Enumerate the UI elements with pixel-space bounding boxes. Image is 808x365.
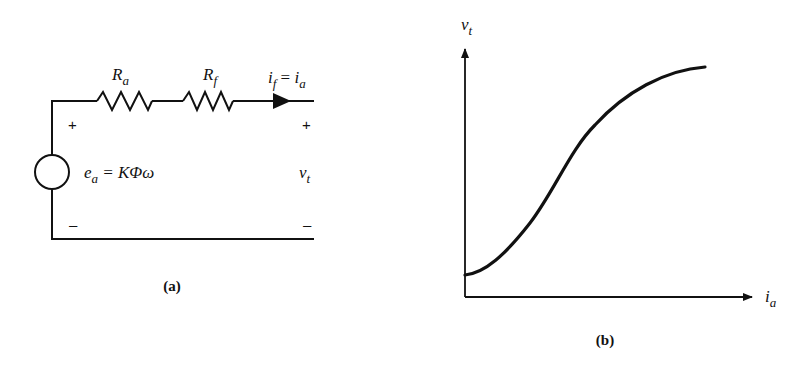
caption-b: (b)	[596, 332, 614, 349]
source-plus-sign: +	[68, 116, 77, 133]
terminal-minus-sign: –	[303, 216, 312, 233]
caption-a: (a)	[163, 278, 181, 295]
wire-left-bottom	[52, 189, 314, 239]
resistor-rf-label: Rf	[202, 65, 219, 88]
x-axis-label: ia	[765, 287, 777, 310]
vt-ia-curve	[465, 67, 705, 275]
source-minus-sign: –	[69, 216, 78, 233]
resistor-ra-label: Ra	[111, 65, 129, 88]
circuit-diagram: Ra Rf if = ia + – + – ea = KΦω vt (a)	[35, 65, 314, 295]
resistor-ra	[97, 92, 152, 110]
y-axis-label: vt	[461, 15, 473, 38]
source-emf-label: ea = KΦω	[84, 163, 154, 186]
resistor-rf	[183, 92, 233, 110]
terminal-voltage-label: vt	[299, 163, 311, 186]
current-arrow-icon	[273, 93, 291, 109]
characteristic-graph: vt ia (b)	[461, 15, 777, 349]
figure-canvas: Ra Rf if = ia + – + – ea = KΦω vt (a) vt…	[0, 0, 808, 365]
current-label: if = ia	[268, 68, 306, 91]
voltage-source-icon	[35, 155, 69, 189]
terminal-plus-sign: +	[302, 116, 311, 133]
